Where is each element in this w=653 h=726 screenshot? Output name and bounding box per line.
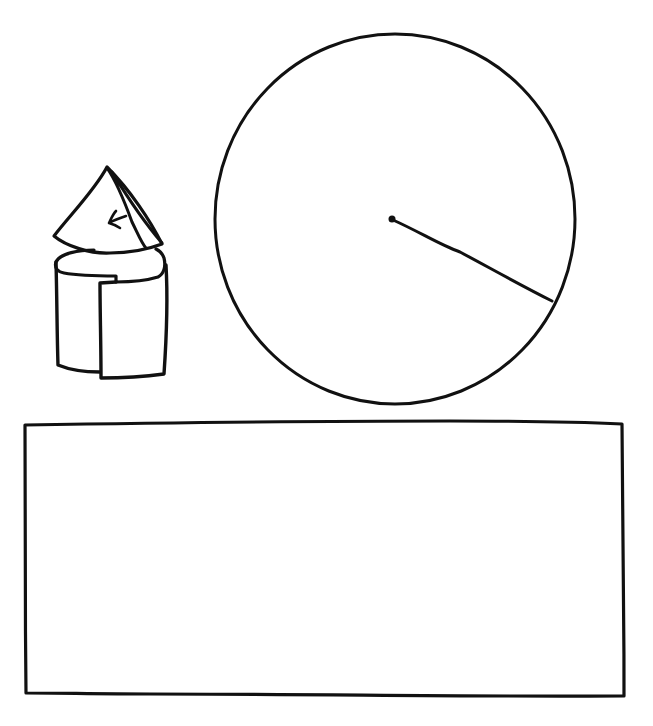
radius-line [393, 220, 552, 301]
cone-fold-flap [107, 168, 162, 248]
cylinder-left-body [56, 262, 100, 372]
circle-drawing [215, 34, 575, 404]
drawing-svg [0, 0, 653, 726]
rectangle-outline [25, 421, 624, 696]
rectangle-drawing [25, 421, 624, 696]
cone-cylinder-drawing [54, 167, 167, 378]
cone-shape [54, 167, 162, 253]
arrow-icon [109, 211, 126, 228]
